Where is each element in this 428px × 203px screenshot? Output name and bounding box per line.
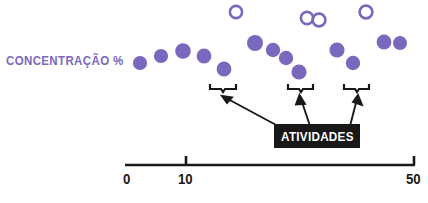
data-point-open	[301, 12, 313, 24]
chart-canvas	[0, 0, 428, 203]
data-point-open	[360, 6, 373, 19]
data-point-filled	[154, 49, 168, 63]
x-tick-label-10: 10	[178, 170, 193, 187]
data-point-filled	[266, 43, 280, 57]
callout-arrow-1	[226, 98, 278, 126]
atividades-callout: ATIVIDADES	[274, 124, 360, 148]
callout-arrowhead-1	[222, 96, 232, 103]
data-point-filled	[329, 42, 344, 57]
filled-dot-series	[133, 35, 407, 80]
bracket-2	[288, 85, 313, 92]
x-tick-label-50: 50	[406, 170, 421, 187]
data-point-filled	[217, 62, 232, 77]
bracket-3	[344, 85, 369, 92]
data-point-filled	[247, 35, 263, 51]
data-point-filled	[377, 35, 392, 50]
bracket-1	[210, 85, 236, 92]
data-point-filled	[133, 56, 147, 70]
atividades-callout-label: ATIVIDADES	[281, 129, 354, 144]
y-axis-label: CONCENTRAÇÃO %	[6, 54, 124, 68]
bracket-group	[210, 85, 369, 92]
callout-arrowhead-3	[353, 95, 362, 105]
data-point-filled	[279, 51, 293, 65]
data-point-open	[230, 6, 242, 18]
open-dot-series	[230, 6, 373, 27]
x-tick-label-0: 0	[123, 170, 130, 187]
data-point-filled	[346, 56, 360, 70]
data-point-filled	[175, 43, 191, 59]
data-point-filled	[197, 49, 212, 64]
x-axis-group	[125, 156, 415, 165]
data-point-filled	[291, 64, 306, 79]
data-point-filled	[393, 36, 407, 50]
data-point-open	[313, 14, 326, 27]
callout-arrowhead-2	[296, 95, 305, 105]
callout-arrow-group	[222, 95, 362, 126]
chart-figure: CONCENTRAÇÃO % ATIVIDADES 0 10 50	[0, 0, 428, 203]
